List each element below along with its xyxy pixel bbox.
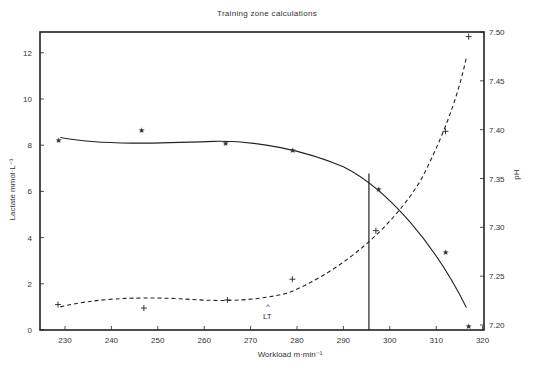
y-tick-label: 10 <box>23 95 32 104</box>
plot-frame <box>40 32 484 330</box>
curves <box>60 57 466 330</box>
plot-border <box>40 32 484 330</box>
ph-point: ★ <box>138 126 145 135</box>
y2-tick-label: 7.20 <box>489 321 505 330</box>
y-tick-label: 2 <box>28 280 33 289</box>
x-tick-label: 290 <box>337 336 351 345</box>
lt-marker-icon: ^ <box>266 302 270 311</box>
y-tick-label: 0 <box>28 326 33 335</box>
x-axis-label: Workload m·min⁻¹ <box>220 350 360 359</box>
x-tick-label: 310 <box>430 336 444 345</box>
x-tick-label: 250 <box>151 336 165 345</box>
ph-point: ★ <box>375 185 382 194</box>
ph-point: ★ <box>222 139 229 148</box>
y-tick-label: 12 <box>23 49 32 58</box>
lt-annotation: LT <box>263 312 272 321</box>
y2-tick-label: 7.25 <box>489 272 505 281</box>
y-tick-label: 8 <box>28 141 33 150</box>
y2-tick-label: 7.40 <box>489 126 505 135</box>
y2-tick-label: 7.30 <box>489 223 505 232</box>
y2-axis-label: pH <box>512 155 521 195</box>
x-tick-label: 230 <box>58 336 72 345</box>
ph-point: ★ <box>55 136 62 145</box>
y2-tick-label: 7.50 <box>489 28 505 37</box>
x-tick-label: 270 <box>244 336 258 345</box>
ph-point: ★ <box>442 248 449 257</box>
data-markers: ★★★★★★★ <box>55 34 473 331</box>
lactate-fit-curve <box>60 57 466 306</box>
ph-point: ★ <box>465 322 472 331</box>
y2-tick-label: 7.35 <box>489 175 505 184</box>
x-tick-label: 300 <box>383 336 397 345</box>
x-tick-label: 280 <box>290 336 304 345</box>
y-axis-label: Lactate mmol·L⁻¹ <box>8 140 17 240</box>
x-tick-label: 240 <box>105 336 119 345</box>
y-tick-label: 6 <box>28 187 33 196</box>
x-tick-label: 320 <box>476 336 490 345</box>
ph-point: ★ <box>289 146 296 155</box>
ph-fit-curve <box>60 137 466 307</box>
y2-tick-label: 7.45 <box>489 77 505 86</box>
y-tick-label: 4 <box>28 234 33 243</box>
x-tick-label: 260 <box>198 336 212 345</box>
